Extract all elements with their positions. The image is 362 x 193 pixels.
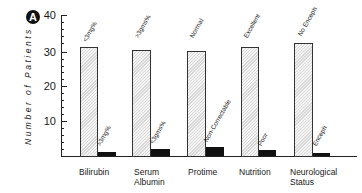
y-axis-label: Number of Patients (23, 45, 33, 145)
bar-bilirubin-unfavorable (98, 152, 116, 156)
category-label: SerumAlbumin (134, 167, 165, 187)
bar-label: <3mg% (81, 20, 98, 43)
minor-tick (61, 114, 64, 115)
bar-label: Enceph (311, 124, 328, 147)
minor-tick (61, 29, 64, 30)
tick-40 (61, 15, 67, 16)
bar-label: No Enceph (296, 6, 318, 37)
bar-neurological-status-unfavorable (313, 153, 330, 156)
bar-protime-unfavorable (206, 147, 224, 156)
minor-tick (61, 107, 64, 108)
category-label: Protime (188, 167, 217, 177)
minor-tick (61, 22, 64, 23)
bar-label: Excellent (242, 13, 261, 39)
category-label: NeurologicalStatus (290, 167, 337, 187)
minor-tick (61, 79, 64, 80)
minor-tick (61, 59, 64, 60)
minor-tick (61, 135, 64, 136)
minor-tick (61, 128, 64, 129)
bar-label: Non-Correctable (202, 98, 232, 143)
minor-tick (61, 100, 64, 101)
tick-10 (61, 121, 67, 122)
minor-tick (61, 72, 64, 73)
minor-tick (61, 66, 64, 67)
minor-tick (61, 142, 64, 143)
tick-label-10: 10 (36, 116, 56, 127)
tick-20 (61, 86, 67, 87)
tick-label-30: 30 (36, 47, 56, 58)
bar-neurological-status-favorable (294, 43, 313, 157)
bar-protime-favorable (187, 51, 206, 157)
minor-tick (61, 93, 64, 94)
bar-label: >3gms% (133, 13, 152, 39)
minor-tick (61, 149, 64, 150)
bar-serum-albumin-unfavorable (151, 149, 170, 156)
minor-tick (61, 36, 64, 37)
bar-label: Normal (188, 17, 205, 39)
tick-30 (61, 52, 67, 53)
tick-label-40: 40 (36, 10, 56, 21)
tick-label-20: 20 (36, 81, 56, 92)
category-label: Bilirubin (79, 167, 109, 177)
category-label: Nutrition (239, 167, 271, 177)
minor-tick (61, 43, 64, 44)
bar-nutrition-unfavorable (259, 150, 276, 156)
